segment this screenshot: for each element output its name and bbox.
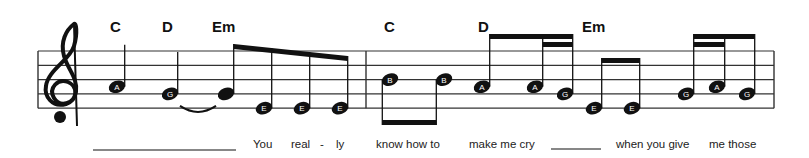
chord-symbol: C: [110, 18, 121, 35]
music-score: C D Em C D Em AGEEEBBAAGEEGAG You real -…: [0, 0, 809, 158]
lyric-syllable: when you give: [615, 138, 690, 150]
note: E: [330, 100, 350, 117]
note-letter: G: [562, 90, 568, 99]
staff: [38, 51, 774, 108]
lyric-syllable: ly: [336, 138, 345, 150]
lyric-hyphen: -: [320, 138, 324, 150]
note: B: [434, 71, 454, 88]
note: G: [737, 85, 757, 102]
note-letter: E: [629, 104, 634, 113]
note: G: [676, 85, 696, 102]
treble-clef-icon: [46, 24, 77, 126]
note-letter: E: [299, 104, 304, 113]
note-head: [216, 85, 236, 102]
beam: [382, 120, 436, 125]
note-letter: A: [532, 83, 538, 92]
lyric-syllable: You: [253, 138, 272, 150]
note-letter: G: [683, 90, 689, 99]
note: G: [555, 85, 575, 102]
note: [216, 85, 236, 102]
note: A: [707, 78, 727, 95]
note: B: [380, 71, 400, 88]
chord-symbol: Em: [212, 18, 235, 35]
note: E: [254, 100, 274, 117]
note-letter: E: [591, 104, 596, 113]
clef-body: [46, 24, 77, 105]
chord-symbol: Em: [582, 18, 605, 35]
note-letter: A: [714, 83, 720, 92]
chord-symbol: D: [162, 18, 173, 35]
note: A: [472, 78, 492, 95]
note-letter: G: [167, 90, 173, 99]
lyrics: You real - ly know how to make me cry wh…: [93, 138, 756, 150]
note: G: [160, 85, 180, 102]
note-letter: A: [114, 83, 120, 92]
beam: [234, 44, 348, 61]
beam: [602, 58, 640, 63]
chord-symbols: C D Em C D Em: [110, 18, 605, 35]
beam: [490, 34, 573, 39]
note: E: [622, 100, 642, 117]
beam-secondary: [543, 42, 573, 47]
note: A: [107, 78, 127, 95]
lyric-syllable: real: [291, 138, 310, 150]
clef-dot: [54, 111, 66, 123]
chord-symbol: D: [478, 18, 489, 35]
note-letter: A: [479, 83, 485, 92]
chord-symbol: C: [384, 18, 395, 35]
note: A: [525, 78, 545, 95]
note: E: [292, 100, 312, 117]
lyric-syllable: make me cry: [469, 138, 535, 150]
note-letter: B: [387, 76, 392, 85]
note-letter: G: [744, 90, 750, 99]
note: E: [584, 100, 604, 117]
note-letter: E: [261, 104, 266, 113]
note-letter: B: [441, 76, 446, 85]
beam-secondary: [694, 42, 725, 47]
note-letter: E: [337, 104, 342, 113]
lyric-syllable: me those: [709, 138, 756, 150]
lyric-syllable: know how to: [376, 138, 440, 150]
beam: [694, 34, 755, 39]
tie: [180, 106, 216, 112]
